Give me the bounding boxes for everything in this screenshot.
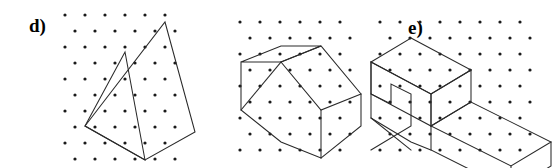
grid-dot	[448, 36, 451, 39]
grid-dot	[448, 100, 451, 103]
edge-upper-block-right-face	[431, 70, 471, 126]
grid-dot	[508, 100, 511, 103]
grid-dot	[438, 148, 441, 151]
grid-dot	[518, 116, 521, 119]
grid-dot	[518, 148, 521, 151]
grid-dot	[428, 36, 431, 39]
grid-dot	[528, 68, 531, 71]
grid-dot	[458, 148, 461, 151]
grid-dot	[418, 148, 421, 151]
grid-dot	[438, 84, 441, 87]
grid-dot	[418, 20, 421, 23]
edges-f	[371, 38, 551, 168]
grid-dot	[518, 20, 521, 23]
dot-grid-figure-panel-set: d) e) f)	[0, 0, 560, 168]
panel-f-drawing	[0, 0, 560, 168]
grid-dot	[498, 52, 501, 55]
grid-dot	[408, 132, 411, 135]
grid-dot	[378, 84, 381, 87]
grid-dot	[528, 100, 531, 103]
grid-dot	[518, 84, 521, 87]
grid-dot	[468, 132, 471, 135]
grid-dot	[478, 84, 481, 87]
grid-dot	[468, 36, 471, 39]
grid-dot	[428, 68, 431, 71]
grid-dot	[418, 52, 421, 55]
grid-dot	[458, 116, 461, 119]
grid-dot	[488, 68, 491, 71]
grid-dot	[378, 20, 381, 23]
grid-dot	[478, 52, 481, 55]
grid-dot	[518, 52, 521, 55]
panel-f: f)	[355, 0, 560, 168]
grid-dot	[398, 116, 401, 119]
grid-dot	[528, 36, 531, 39]
grid-dot	[488, 36, 491, 39]
grid-dot	[408, 68, 411, 71]
grid-dot	[488, 100, 491, 103]
grid-dot	[388, 36, 391, 39]
grid-dot	[448, 68, 451, 71]
grid-dot	[498, 20, 501, 23]
grid-dot	[488, 132, 491, 135]
grid-dot	[498, 148, 501, 151]
grid-dot	[378, 116, 381, 119]
grid-dot	[478, 116, 481, 119]
grid-dot	[458, 84, 461, 87]
grid-dot	[378, 148, 381, 151]
grid-dot	[508, 36, 511, 39]
edge-notch-left-wing	[371, 62, 411, 150]
grid-dot	[378, 52, 381, 55]
grid-dot	[458, 20, 461, 23]
grid-dot	[478, 20, 481, 23]
grid-dot	[498, 84, 501, 87]
grid-dot	[398, 148, 401, 151]
grid-dot	[508, 68, 511, 71]
grid-dot	[398, 84, 401, 87]
grid-dot	[398, 20, 401, 23]
grid-dot	[508, 132, 511, 135]
grid-dot	[438, 116, 441, 119]
grid-dot	[458, 52, 461, 55]
grid-dot	[438, 20, 441, 23]
grid-dot	[398, 52, 401, 55]
grid-dot	[528, 132, 531, 135]
